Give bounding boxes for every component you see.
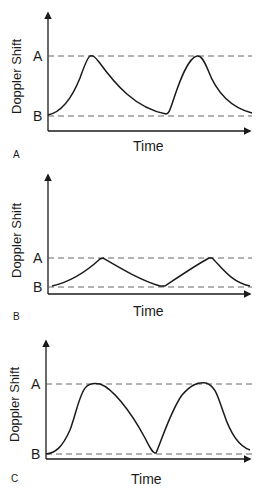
panel-c: A B Doppler Shift Time C (7, 341, 252, 487)
y-axis-label: Doppler Shift (9, 38, 24, 114)
level-b-label: B (33, 279, 42, 295)
level-b-label: B (33, 108, 42, 124)
doppler-curve (52, 258, 250, 286)
x-axis-label: Time (133, 138, 164, 154)
level-a-label: A (33, 250, 43, 266)
level-a-label: A (31, 376, 41, 392)
panel-label: A (13, 149, 20, 160)
panel-label: C (11, 473, 18, 484)
level-b-label: B (31, 446, 40, 462)
panel-a: A B Doppler Shift Time A (9, 13, 252, 160)
panel-b: A B Doppler Shift Time B (9, 175, 252, 322)
x-axis-label: Time (131, 471, 162, 487)
doppler-curve (48, 56, 252, 115)
y-axis-label: Doppler Shift (9, 202, 24, 278)
doppler-figure: A B Doppler Shift Time A A B Doppler Shi… (0, 0, 264, 498)
panel-label: B (13, 311, 20, 322)
x-axis-label: Time (133, 303, 164, 319)
doppler-curve (46, 383, 250, 454)
y-axis-label: Doppler Shift (7, 366, 22, 442)
level-a-label: A (33, 48, 43, 64)
